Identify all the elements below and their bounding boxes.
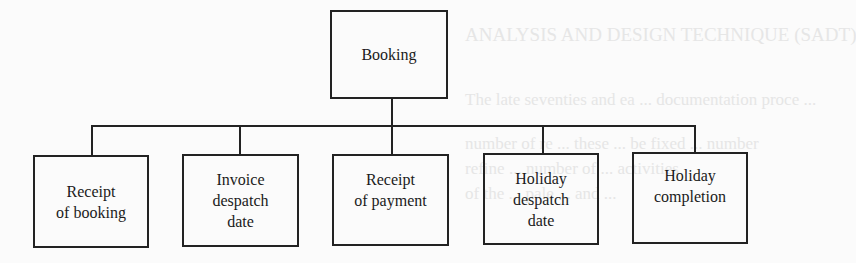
- child-node-label-line3: date: [513, 210, 569, 231]
- child-node-label-line1: Receipt: [56, 181, 126, 202]
- child-stem-3: [391, 125, 393, 155]
- child-stem-4: [542, 125, 544, 154]
- bleed-text-1: ANALYSIS AND DESIGN TECHNIQUE (SADT): [465, 24, 856, 46]
- child-node-invoice-despatch-date: Invoice despatch date: [182, 154, 299, 247]
- child-node-label-line1: Receipt: [354, 169, 426, 190]
- child-node-label-line1: Holiday: [654, 165, 726, 186]
- child-node-label-line3: date: [213, 211, 269, 232]
- child-node-receipt-of-payment: Receipt of payment: [332, 154, 449, 246]
- bleed-text-2: The late seventies and ea ... documentat…: [465, 90, 816, 110]
- child-node-label-line2: of booking: [56, 202, 126, 223]
- root-node-booking: Booking: [330, 10, 448, 99]
- horizontal-connector: [91, 125, 696, 127]
- child-node-holiday-completion: Holiday completion: [632, 152, 748, 244]
- child-node-holiday-despatch-date: Holiday despatch date: [483, 153, 599, 245]
- bleed-text-3: number of re ... these ... be fixed ... …: [465, 134, 759, 154]
- child-stem-2: [239, 125, 241, 156]
- child-node-label-line2: despatch: [213, 190, 269, 211]
- child-node-label-line2: completion: [654, 186, 726, 207]
- root-node-label: Booking: [361, 44, 416, 65]
- child-stem-5: [694, 125, 696, 153]
- root-stem: [391, 98, 393, 127]
- child-stem-1: [91, 125, 93, 156]
- child-node-label-line1: Holiday: [513, 168, 569, 189]
- child-node-label-line1: Invoice: [213, 169, 269, 190]
- child-node-label-line2: despatch: [513, 189, 569, 210]
- child-node-receipt-of-booking: Receipt of booking: [33, 155, 149, 248]
- child-node-label-line2: of payment: [354, 190, 426, 211]
